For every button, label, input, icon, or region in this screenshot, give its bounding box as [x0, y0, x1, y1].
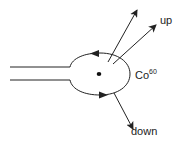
loop-arrow-bottom-icon: [99, 92, 108, 99]
label-up: up: [160, 15, 172, 26]
label-isotope: Co60: [135, 70, 157, 81]
label-down: down: [131, 126, 157, 137]
down-arrow: [114, 93, 133, 129]
isotope-symbol: Co: [135, 69, 149, 81]
up-arrow-1: [108, 10, 137, 62]
isotope-mass: 60: [149, 68, 157, 75]
co60-diagram: [0, 0, 185, 146]
loop-arrow-top-icon: [90, 50, 99, 57]
up-arrow-2: [113, 25, 156, 64]
nucleus-dot: [97, 72, 102, 76]
